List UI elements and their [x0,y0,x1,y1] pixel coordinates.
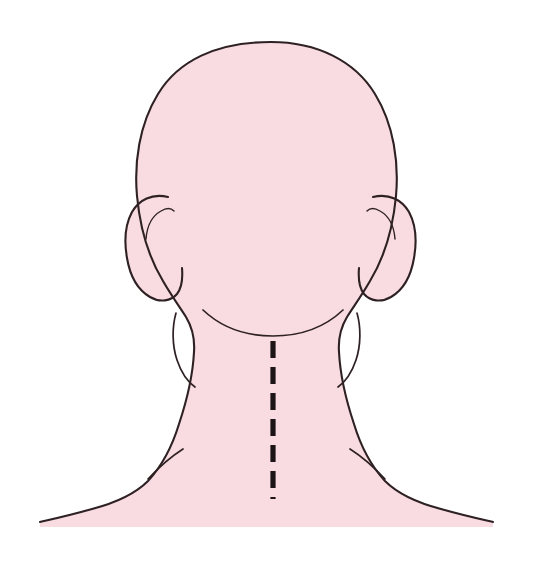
skin-silhouette-group [40,42,493,527]
head-neck-torso-fill [40,42,493,527]
posterior-head-neck-diagram [0,0,533,575]
anatomy-figure [0,0,533,575]
